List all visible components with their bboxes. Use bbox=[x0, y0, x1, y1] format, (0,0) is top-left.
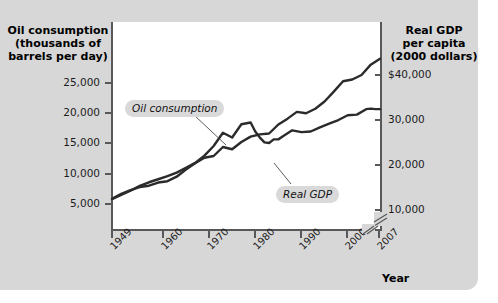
right-axis-break-icon bbox=[374, 212, 388, 226]
chart-figure: 25,000 20,000 15,000 10,000 5,000 $40,00… bbox=[0, 0, 498, 303]
real-gdp-callout: Real GDP bbox=[276, 186, 339, 203]
chart-lines-layer bbox=[0, 0, 498, 303]
series-real-gdp bbox=[112, 59, 380, 199]
oil-consumption-callout: Oil consumption bbox=[125, 100, 224, 117]
gdp-callout-leader-line bbox=[274, 163, 291, 184]
oil-callout-leader-line bbox=[194, 115, 226, 145]
